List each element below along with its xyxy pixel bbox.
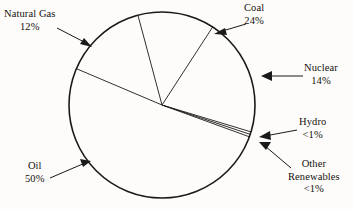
slice-label-natural-gas-name: Natural Gas: [4, 8, 56, 21]
slice-label-other-renewables: Other Renewables <1%: [288, 158, 340, 196]
slice-label-hydro: Hydro <1%: [299, 116, 326, 141]
slice-label-nuclear-pct: 14%: [304, 75, 338, 88]
pie-chart-figure: Natural Gas 12% Coal 24% Nuclear 14% Hyd…: [0, 0, 353, 209]
callout-arrowhead-hydro: [259, 131, 271, 140]
callout-arrowhead-nuclear: [261, 71, 272, 81]
slice-label-natural-gas: Natural Gas 12%: [4, 8, 56, 33]
slice-label-oil: Oil 50%: [25, 160, 45, 185]
slice-label-nuclear: Nuclear 14%: [304, 62, 338, 87]
callout-arrowhead-natural-gas: [80, 38, 92, 47]
slice-label-hydro-pct: <1%: [299, 129, 326, 142]
slice-label-hydro-name: Hydro: [299, 116, 326, 129]
slice-label-coal-name: Coal: [244, 2, 264, 15]
slice-label-oil-name: Oil: [25, 160, 45, 173]
callout-arrowhead-other-renewables: [259, 142, 271, 150]
slice-label-natural-gas-pct: 12%: [4, 21, 56, 34]
slice-label-other-renewables-pct: <1%: [288, 183, 340, 196]
slice-label-other-renewables-name-line2: Renewables: [288, 171, 340, 184]
callout-arrow-oil: [50, 163, 85, 178]
slice-label-oil-pct: 50%: [25, 173, 45, 186]
slice-label-coal-pct: 24%: [244, 15, 264, 28]
slice-label-nuclear-name: Nuclear: [304, 62, 338, 75]
slice-label-coal: Coal 24%: [244, 2, 264, 27]
slice-label-other-renewables-name-line1: Other: [288, 158, 340, 171]
